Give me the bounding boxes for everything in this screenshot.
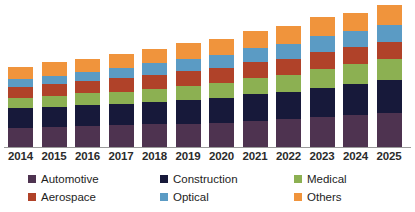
bar-segment-aerospace-2015[interactable] <box>42 84 67 96</box>
x-tick-label-2022: 2022 <box>273 150 304 162</box>
bar-segment-aerospace-2025[interactable] <box>377 42 402 59</box>
bar-segment-automotive-2014[interactable] <box>8 128 33 147</box>
bar-segment-optical-2023[interactable] <box>310 36 335 52</box>
bar-segment-automotive-2018[interactable] <box>142 124 167 147</box>
bar-segment-others-2018[interactable] <box>142 49 167 63</box>
bar-segment-aerospace-2018[interactable] <box>142 75 167 89</box>
bar-segment-others-2014[interactable] <box>8 67 33 79</box>
bar-segment-medical-2018[interactable] <box>142 89 167 102</box>
bar-segment-optical-2015[interactable] <box>42 76 67 84</box>
bar-segment-aerospace-2017[interactable] <box>109 78 134 91</box>
bar-2018[interactable] <box>142 49 167 147</box>
bar-segment-optical-2022[interactable] <box>276 44 301 59</box>
bar-segment-optical-2017[interactable] <box>109 68 134 78</box>
bar-segment-automotive-2020[interactable] <box>209 123 234 147</box>
bar-segment-medical-2015[interactable] <box>42 96 67 106</box>
plot-area <box>0 0 415 148</box>
bar-segment-automotive-2019[interactable] <box>176 124 201 148</box>
bar-2023[interactable] <box>310 17 335 147</box>
bar-segment-medical-2020[interactable] <box>209 83 234 98</box>
bar-segment-aerospace-2016[interactable] <box>75 81 100 93</box>
bar-segment-automotive-2023[interactable] <box>310 117 335 147</box>
bar-2025[interactable] <box>377 5 402 147</box>
bar-segment-medical-2022[interactable] <box>276 75 301 92</box>
bar-segment-construction-2025[interactable] <box>377 80 402 113</box>
legend-swatch-optical-icon <box>160 193 168 201</box>
bar-segment-medical-2021[interactable] <box>243 78 268 94</box>
bar-2017[interactable] <box>109 54 134 147</box>
bar-segment-medical-2025[interactable] <box>377 59 402 81</box>
bar-segment-aerospace-2024[interactable] <box>343 47 368 64</box>
legend-item-others[interactable]: Others <box>294 191 342 203</box>
bar-segment-construction-2023[interactable] <box>310 88 335 117</box>
bar-segment-aerospace-2019[interactable] <box>176 71 201 86</box>
bar-segment-construction-2014[interactable] <box>8 108 33 129</box>
x-axis-tick-labels: 2014201520162017201820192020202120222023… <box>0 150 415 168</box>
bar-segment-automotive-2022[interactable] <box>276 119 301 147</box>
bar-segment-medical-2024[interactable] <box>343 64 368 84</box>
bar-segment-aerospace-2022[interactable] <box>276 59 301 75</box>
bar-segment-optical-2016[interactable] <box>75 72 100 81</box>
legend-item-medical[interactable]: Medical <box>294 173 347 185</box>
bar-segment-construction-2022[interactable] <box>276 92 301 119</box>
legend-item-optical[interactable]: Optical <box>160 191 209 203</box>
bar-segment-optical-2019[interactable] <box>176 59 201 71</box>
bar-segment-medical-2019[interactable] <box>176 86 201 100</box>
bar-segment-others-2025[interactable] <box>377 5 402 25</box>
bar-segment-medical-2023[interactable] <box>310 69 335 88</box>
bar-2015[interactable] <box>42 62 67 147</box>
x-tick-label-2016: 2016 <box>72 150 103 162</box>
bar-2024[interactable] <box>343 13 368 147</box>
bar-segment-optical-2014[interactable] <box>8 79 33 87</box>
bar-2016[interactable] <box>75 59 100 147</box>
bar-segment-construction-2018[interactable] <box>142 102 167 125</box>
bar-segment-optical-2025[interactable] <box>377 25 402 42</box>
bar-segment-construction-2017[interactable] <box>109 104 134 126</box>
legend-swatch-automotive-icon <box>28 175 36 183</box>
bar-segment-others-2016[interactable] <box>75 59 100 72</box>
legend-item-construction[interactable]: Construction <box>160 173 238 185</box>
bar-segment-aerospace-2021[interactable] <box>243 62 268 78</box>
bar-segment-construction-2019[interactable] <box>176 100 201 124</box>
bar-segment-automotive-2015[interactable] <box>42 127 67 147</box>
bar-segment-others-2020[interactable] <box>209 39 234 55</box>
bar-segment-others-2021[interactable] <box>243 31 268 48</box>
bar-segment-construction-2024[interactable] <box>343 84 368 115</box>
bar-2019[interactable] <box>176 43 201 147</box>
legend-swatch-aerospace-icon <box>28 193 36 201</box>
bar-segment-medical-2014[interactable] <box>8 98 33 107</box>
bar-segment-construction-2016[interactable] <box>75 105 100 127</box>
x-tick-label-2019: 2019 <box>173 150 204 162</box>
bar-segment-optical-2018[interactable] <box>142 63 167 74</box>
bar-segment-optical-2021[interactable] <box>243 48 268 62</box>
bar-2022[interactable] <box>276 26 301 147</box>
bar-segment-others-2019[interactable] <box>176 43 201 59</box>
bar-segment-aerospace-2014[interactable] <box>8 87 33 98</box>
bar-2021[interactable] <box>243 31 268 147</box>
bar-segment-construction-2015[interactable] <box>42 107 67 128</box>
bar-segment-aerospace-2020[interactable] <box>209 68 234 83</box>
bar-segment-aerospace-2023[interactable] <box>310 52 335 69</box>
legend-item-automotive[interactable]: Automotive <box>28 173 99 185</box>
legend-label-automotive: Automotive <box>41 173 99 185</box>
bar-segment-automotive-2025[interactable] <box>377 113 402 147</box>
bar-segment-others-2017[interactable] <box>109 54 134 68</box>
bar-2020[interactable] <box>209 39 234 147</box>
bar-2014[interactable] <box>8 67 33 147</box>
bar-segment-optical-2024[interactable] <box>343 31 368 47</box>
bar-segment-optical-2020[interactable] <box>209 55 234 68</box>
bar-segment-automotive-2017[interactable] <box>109 125 134 147</box>
bar-segment-others-2015[interactable] <box>42 62 67 75</box>
bar-segment-medical-2016[interactable] <box>75 93 100 104</box>
bar-segment-construction-2021[interactable] <box>243 94 268 120</box>
bar-segment-automotive-2024[interactable] <box>343 115 368 147</box>
bar-segment-construction-2020[interactable] <box>209 98 234 122</box>
bar-segment-others-2024[interactable] <box>343 13 368 32</box>
bar-segment-automotive-2016[interactable] <box>75 126 100 147</box>
chart-legend: AutomotiveAerospaceConstructionOpticalMe… <box>0 170 415 212</box>
bar-segment-medical-2017[interactable] <box>109 92 134 104</box>
bar-segment-others-2022[interactable] <box>276 26 301 44</box>
bar-segment-others-2023[interactable] <box>310 17 335 36</box>
bar-segment-automotive-2021[interactable] <box>243 121 268 147</box>
legend-item-aerospace[interactable]: Aerospace <box>28 191 96 203</box>
